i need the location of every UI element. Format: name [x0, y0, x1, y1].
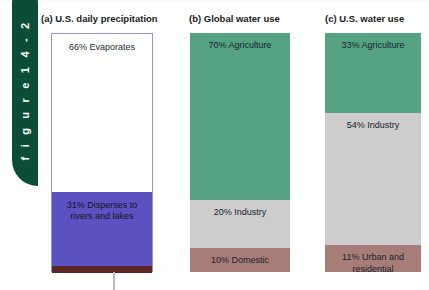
bar-c-segment-agriculture-label: 33% Agriculture [325, 40, 421, 52]
bar-b-segment-industry-label: 20% Industry [190, 207, 290, 219]
page-top-edge [0, 0, 429, 2]
bar-c-segment-urban-residential-label: 11% Urban and residential [325, 252, 421, 275]
bar-a-segment-disperses-label: 31% Disperses to rivers and lakes [52, 200, 152, 223]
bar-b-segment-agriculture[interactable]: 70% Agriculture [190, 33, 290, 200]
stacked-bar-a: 66% Evaporates 31% Disperses to rivers a… [51, 33, 153, 272]
figure-number-tab: f i g u r e 1 4 - 2 [12, 0, 38, 186]
bar-c-segment-urban-residential[interactable]: 11% Urban and residential [325, 245, 421, 272]
panel-b-title: (b) Global water use [189, 13, 280, 24]
figure-number-label: f i g u r e 1 4 - 2 [19, 20, 31, 161]
panel-c-title: (c) U.S. water use [325, 13, 404, 24]
panel-a-leader-line [113, 272, 115, 290]
bar-b-segment-domestic-label: 10% Domestic [190, 255, 290, 267]
bar-c-segment-industry-label: 54% Industry [325, 120, 421, 132]
stacked-bar-c: 33% Agriculture 54% Industry 11% Urban a… [325, 33, 421, 272]
panel-a-title: (a) U.S. daily precipitation [41, 13, 158, 24]
bar-b-segment-domestic[interactable]: 10% Domestic [190, 248, 290, 272]
bar-c-segment-agriculture[interactable]: 33% Agriculture [325, 33, 421, 113]
bar-a-segment-evaporates[interactable]: 66% Evaporates [52, 34, 152, 192]
bar-c-segment-industry[interactable]: 54% Industry [325, 113, 421, 245]
stacked-bar-b: 70% Agriculture 20% Industry 10% Domesti… [190, 33, 290, 272]
bar-a-segment-base[interactable] [52, 266, 152, 273]
bar-b-segment-agriculture-label: 70% Agriculture [190, 40, 290, 52]
bar-b-segment-industry[interactable]: 20% Industry [190, 200, 290, 248]
bar-a-segment-disperses[interactable]: 31% Disperses to rivers and lakes [52, 192, 152, 266]
bar-a-segment-evaporates-label: 66% Evaporates [52, 42, 152, 54]
